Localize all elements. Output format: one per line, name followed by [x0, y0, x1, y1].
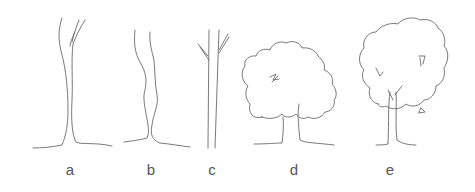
tree-d-icon	[242, 42, 336, 145]
label-e: e	[380, 161, 400, 178]
tree-a-icon	[33, 18, 112, 148]
label-b: b	[141, 161, 161, 178]
label-a: a	[60, 161, 80, 178]
tree-e-icon	[360, 18, 448, 145]
tree-b-icon	[124, 30, 190, 147]
label-c: c	[202, 161, 222, 178]
label-d: d	[284, 161, 304, 178]
tree-c-icon	[198, 30, 229, 148]
